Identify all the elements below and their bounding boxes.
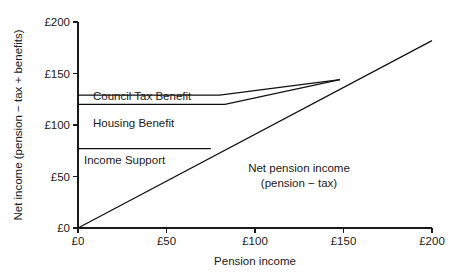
x-tick-label-50: £50 — [157, 235, 176, 247]
x-tick-label-200: £200 — [419, 235, 445, 247]
y-tick-label-200: £200 — [44, 16, 70, 28]
x-axis-title: Pension income — [214, 255, 296, 267]
y-tick-label-100: £100 — [44, 119, 70, 131]
y-tick-marks — [73, 22, 78, 228]
label-council-tax-benefit: Council Tax Benefit — [93, 90, 192, 102]
series-group — [78, 41, 432, 228]
label-net-pension-income-sub: (pension − tax) — [261, 177, 338, 189]
chart-figure: £0 £50 £100 £150 £200 £0 £50 £100 £150 £… — [0, 0, 460, 274]
x-tick-labels: £0 £50 £100 £150 £200 — [72, 235, 445, 247]
label-income-support: Income Support — [84, 154, 166, 166]
x-tick-marks — [78, 228, 432, 233]
y-tick-label-150: £150 — [44, 68, 70, 80]
label-housing-benefit: Housing Benefit — [93, 117, 175, 129]
y-axis-title: Net income (pension − tax + benefits) — [12, 29, 24, 220]
chart-canvas: £0 £50 £100 £150 £200 £0 £50 £100 £150 £… — [0, 0, 460, 274]
label-net-pension-income: Net pension income — [248, 162, 350, 174]
y-tick-labels: £0 £50 £100 £150 £200 — [44, 16, 70, 234]
x-tick-label-150: £150 — [331, 235, 357, 247]
x-tick-label-100: £100 — [242, 235, 268, 247]
series-net-pension-income — [78, 41, 432, 228]
y-tick-label-0: £0 — [57, 222, 70, 234]
y-tick-label-50: £50 — [51, 171, 70, 183]
x-tick-label-0: £0 — [72, 235, 85, 247]
